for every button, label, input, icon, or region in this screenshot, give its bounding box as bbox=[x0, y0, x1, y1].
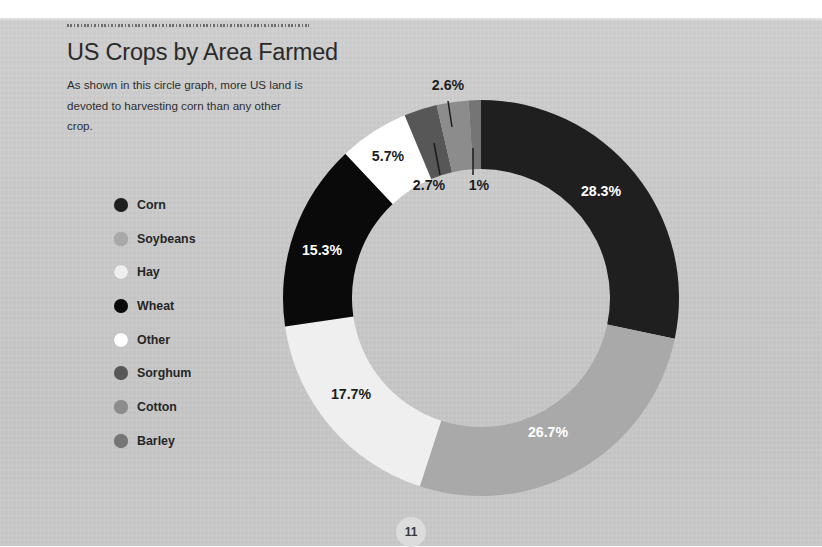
legend-item-label: Hay bbox=[137, 265, 160, 279]
legend-item-label: Sorghum bbox=[137, 366, 191, 380]
legend-item: Barley bbox=[114, 424, 196, 458]
legend-swatch-icon bbox=[114, 198, 128, 212]
slice-value-label: 26.7% bbox=[528, 424, 569, 440]
legend-item-label: Other bbox=[137, 333, 170, 347]
legend-swatch-icon bbox=[114, 299, 128, 313]
slice-value-label: 28.3% bbox=[581, 183, 622, 199]
legend-item: Wheat bbox=[114, 289, 196, 323]
slice-value-label: 15.3% bbox=[302, 242, 343, 258]
page-title: US Crops by Area Farmed bbox=[67, 38, 315, 66]
legend-item-label: Cotton bbox=[137, 400, 177, 414]
legend-item-label: Barley bbox=[137, 434, 175, 448]
legend-swatch-icon bbox=[114, 265, 128, 279]
legend-swatch-icon bbox=[114, 232, 128, 246]
page-number: 11 bbox=[396, 517, 426, 547]
slice-value-label: 2.6% bbox=[432, 77, 465, 93]
header-block: US Crops by Area Farmed As shown in this… bbox=[67, 24, 315, 137]
legend-item: Corn bbox=[114, 188, 196, 222]
chart-legend: CornSoybeansHayWheatOtherSorghumCottonBa… bbox=[114, 188, 196, 458]
donut-slice bbox=[420, 325, 675, 496]
legend-item-label: Corn bbox=[137, 198, 166, 212]
page-subtitle: As shown in this circle graph, more US l… bbox=[67, 75, 305, 137]
legend-swatch-icon bbox=[114, 366, 128, 380]
slice-value-label: 5.7% bbox=[372, 148, 405, 164]
donut-slices bbox=[283, 100, 679, 496]
legend-item: Soybeans bbox=[114, 222, 196, 256]
legend-swatch-icon bbox=[114, 333, 128, 347]
legend-item: Cotton bbox=[114, 390, 196, 424]
legend-swatch-icon bbox=[114, 434, 128, 448]
donut-slice bbox=[481, 100, 679, 339]
slice-value-label: 17.7% bbox=[331, 386, 372, 402]
legend-item: Other bbox=[114, 323, 196, 357]
legend-item-label: Soybeans bbox=[137, 232, 196, 246]
dotted-rule-divider bbox=[67, 24, 309, 27]
slice-value-label: 2.7% bbox=[413, 177, 446, 193]
legend-item: Hay bbox=[114, 255, 196, 289]
slice-value-label: 1% bbox=[469, 177, 490, 193]
legend-item-label: Wheat bbox=[137, 299, 174, 313]
legend-swatch-icon bbox=[114, 400, 128, 414]
legend-item: Sorghum bbox=[114, 356, 196, 390]
